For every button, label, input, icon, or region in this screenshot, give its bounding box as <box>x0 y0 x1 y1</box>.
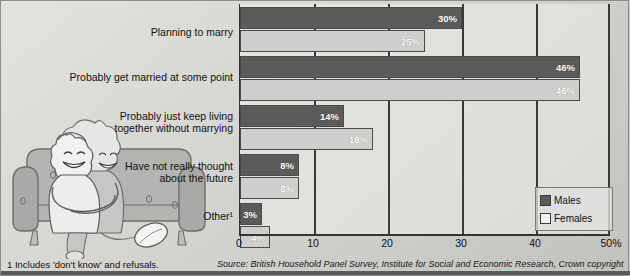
category-label-not-thought-about-future: Have not really thought about the future <box>61 161 233 184</box>
category-label-other: Other¹ <box>61 211 233 223</box>
bar-female-planning-to-marry: 25% <box>240 30 425 52</box>
x-tick-10: 10 <box>307 237 319 249</box>
legend-swatch-males-icon <box>540 195 551 206</box>
category-label-keep-living-together: Probably just keep living together witho… <box>61 111 233 134</box>
bar-value-label: 46% <box>556 85 579 96</box>
bar-value-label: 18% <box>349 134 372 145</box>
bottom-rule <box>1 271 630 275</box>
x-tick-20: 20 <box>381 237 393 249</box>
bar-male-probably-get-married: 46% <box>240 56 580 78</box>
legend-label-males: Males <box>554 195 581 206</box>
x-tick-30: 30 <box>455 237 467 249</box>
bar-female-keep-living-together: 18% <box>240 128 373 150</box>
bar-value-label: 8% <box>280 160 298 171</box>
category-label-planning-to-marry: Planning to marry <box>61 27 233 39</box>
x-tick-40: 40 <box>529 237 541 249</box>
bar-value-label: 3% <box>243 209 261 220</box>
bar-male-keep-living-together: 14% <box>240 105 344 127</box>
legend-swatch-females-icon <box>540 213 551 224</box>
legend-label-females: Females <box>554 213 592 224</box>
footnote: 1 Includes 'don't know' and refusals. <box>7 259 159 270</box>
x-axis-line <box>239 234 610 236</box>
bar-value-label: 25% <box>401 36 424 47</box>
bar-female-probably-get-married: 46% <box>240 79 580 101</box>
source-note: Source: British Household Panel Survey, … <box>217 259 624 269</box>
gridline-30 <box>462 4 464 234</box>
bar-value-label: 8% <box>280 183 298 194</box>
bar-female-other: 4% <box>240 226 270 248</box>
bar-value-label: 14% <box>320 111 343 122</box>
cropped-title-fragment <box>31 0 191 5</box>
bar-value-label: 46% <box>556 62 579 73</box>
x-tick-0: 0 <box>236 237 242 249</box>
bar-male-not-thought-about-future: 8% <box>240 154 299 176</box>
category-label-probably-get-married: Probably get married at some point <box>41 72 233 84</box>
x-tick-50: 50% <box>600 237 621 249</box>
legend: Males Females <box>535 187 613 231</box>
legend-item-males: Males <box>540 191 612 209</box>
bar-male-other: 3% <box>240 203 262 225</box>
bar-female-not-thought-about-future: 8% <box>240 177 299 199</box>
bar-value-label: 30% <box>438 13 461 24</box>
bar-male-planning-to-marry: 30% <box>240 7 462 29</box>
legend-item-females: Females <box>540 209 612 227</box>
